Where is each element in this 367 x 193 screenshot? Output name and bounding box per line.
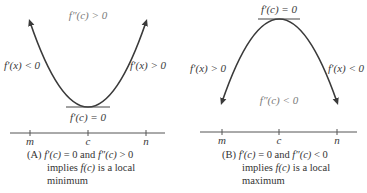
tick-label-c-b: c xyxy=(277,134,282,146)
left-slope-label-b: f′(x) > 0 xyxy=(190,62,227,75)
left-slope-label-a: f′(x) < 0 xyxy=(4,59,41,72)
caption-b-fc: f(c) xyxy=(276,162,291,173)
caption-b-fprime: f′(c) xyxy=(239,149,256,160)
right-slope-label-a: f′(x) > 0 xyxy=(130,59,167,72)
caption-a-line3: minimum xyxy=(27,174,187,187)
caption-a-tag: (A) xyxy=(27,149,42,160)
second-derivative-label-b: f″(c) < 0 xyxy=(260,94,299,107)
caption-b-line2: implies f(c) is a local xyxy=(222,161,367,174)
caption-b-implies: implies xyxy=(242,162,276,173)
caption-a-fdoubleprime: f″(c) xyxy=(98,149,117,160)
caption-a-line1: (A) f′(c) = 0 and f″(c) > 0 xyxy=(27,149,133,160)
tick-label-m-b: m xyxy=(218,134,226,146)
concave-down-curve xyxy=(222,19,337,102)
caption-b-lt: < 0 xyxy=(311,149,327,160)
caption-b-and: = 0 and xyxy=(256,149,293,160)
panel-a: f″(c) > 0 f′(x) < 0 f′(x) > 0 f′(c) = 0 … xyxy=(4,9,167,147)
caption-a-fprime: f′(c) xyxy=(44,149,61,160)
panel-b: f′(c) = 0 f′(x) > 0 f′(x) < 0 f″(c) < 0 … xyxy=(190,3,365,146)
caption-b-line1: (B) f′(c) = 0 and f″(c) < 0 xyxy=(222,149,328,160)
caption-a-implies: implies xyxy=(47,162,81,173)
tick-label-n-b: n xyxy=(334,134,340,146)
caption-a-gt: > 0 xyxy=(117,149,133,160)
tick-label-m-a: m xyxy=(26,135,34,147)
caption-b-line3: maximum xyxy=(222,174,367,187)
caption-b-fdoubleprime: f″(c) xyxy=(292,149,311,160)
second-derivative-label-a: f″(c) > 0 xyxy=(69,9,108,22)
caption-b-isalocal: is a local xyxy=(290,162,330,173)
tangent-label-a: f′(c) = 0 xyxy=(70,111,107,124)
tick-label-c-a: c xyxy=(86,135,91,147)
right-slope-label-b: f′(x) < 0 xyxy=(328,62,365,75)
tick-label-n-a: n xyxy=(143,135,149,147)
caption-a-fc: f(c) xyxy=(81,162,96,173)
caption-b: (B) f′(c) = 0 and f″(c) < 0 implies f(c)… xyxy=(222,148,367,187)
caption-a: (A) f′(c) = 0 and f″(c) > 0 implies f(c)… xyxy=(27,148,187,187)
caption-a-and: = 0 and xyxy=(61,149,98,160)
caption-a-isalocal: is a local xyxy=(95,162,135,173)
tangent-label-b: f′(c) = 0 xyxy=(261,3,298,16)
caption-b-tag: (B) xyxy=(222,149,236,160)
caption-a-line2: implies f(c) is a local xyxy=(27,161,187,174)
concave-up-curve xyxy=(30,22,146,107)
